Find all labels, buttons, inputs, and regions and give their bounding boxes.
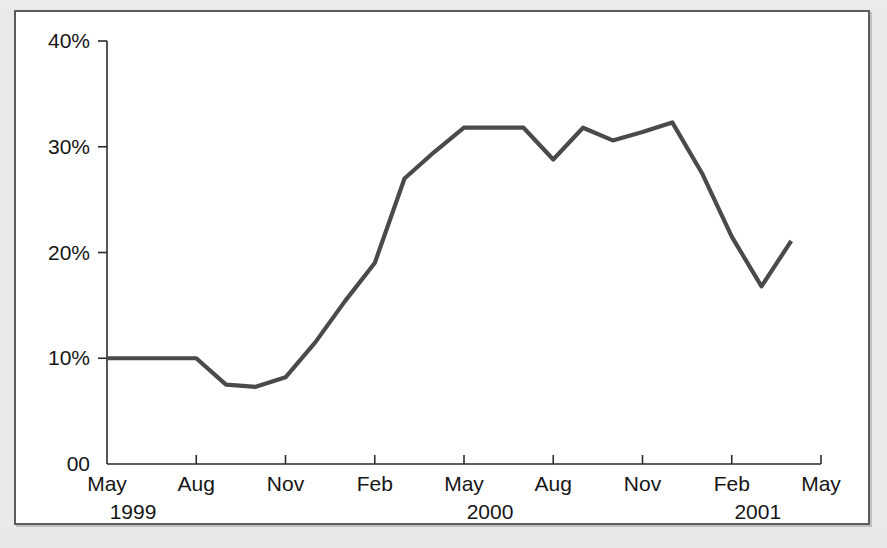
y-tick-label: 20% (48, 241, 90, 264)
x-tick-label: May (801, 472, 841, 495)
page-root: 0010%20%30%40% MayAugNovFebMayAugNovFebM… (0, 0, 887, 548)
x-tick-label: Nov (267, 472, 305, 495)
x-tick-label: May (444, 472, 484, 495)
data-series-line (107, 122, 791, 386)
y-tick-label: 10% (48, 346, 90, 369)
x-tick-label: Feb (714, 472, 750, 495)
x-axis-year-label: 2000 (467, 500, 514, 523)
x-axis-year-label: 2001 (734, 500, 781, 523)
y-axis: 0010%20%30%40% (48, 29, 107, 475)
x-axis-year-label: 1999 (110, 500, 157, 523)
page-grain-bottom (0, 530, 887, 548)
page-grain-top (0, 0, 887, 8)
x-tick-label: Aug (178, 472, 215, 495)
x-tick-label: Feb (357, 472, 393, 495)
data-series-group (107, 122, 791, 386)
chart-figure-panel: 0010%20%30%40% MayAugNovFebMayAugNovFebM… (14, 10, 870, 525)
y-tick-label: 40% (48, 29, 90, 52)
x-tick-label: May (87, 472, 127, 495)
line-chart-svg: 0010%20%30%40% MayAugNovFebMayAugNovFebM… (16, 12, 868, 523)
x-tick-label: Aug (535, 472, 572, 495)
x-axis: MayAugNovFebMayAugNovFebMay199920002001 (87, 455, 841, 523)
chart-plot-area: 0010%20%30%40% MayAugNovFebMayAugNovFebM… (16, 12, 868, 523)
x-tick-label: Nov (624, 472, 662, 495)
y-tick-label: 30% (48, 135, 90, 158)
